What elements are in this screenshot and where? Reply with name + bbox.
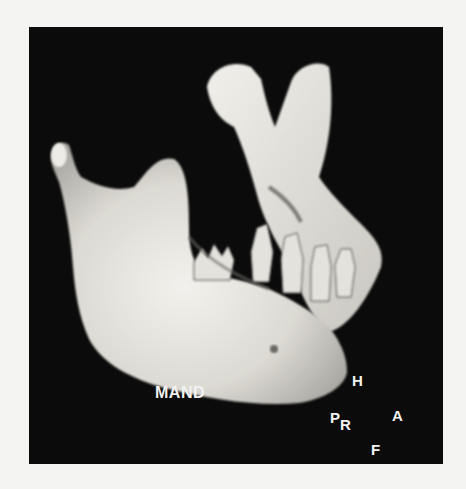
condyle	[51, 143, 67, 167]
mandible-rendering	[29, 27, 443, 464]
structure-label: MAND	[155, 384, 205, 402]
orientation-anterior-label: A	[392, 407, 403, 424]
orientation-foot-label: F	[371, 441, 381, 458]
orientation-head-label: H	[352, 372, 363, 389]
ct-reconstruction-image: MAND H P R A F	[29, 27, 443, 464]
orientation-right-label: R	[340, 416, 351, 433]
orientation-posterior-label: P	[330, 409, 341, 426]
